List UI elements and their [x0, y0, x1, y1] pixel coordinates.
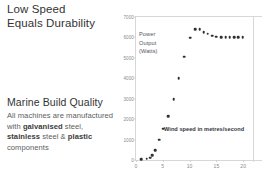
body-bold-plastic: plastic — [68, 132, 92, 141]
headline-line-2: Equals Durability — [7, 17, 115, 31]
x-axis-tick-label: 5 — [153, 163, 173, 169]
scatter-point — [224, 36, 227, 39]
scatter-point — [237, 36, 240, 39]
y-axis-tick-label: 4000 — [104, 76, 136, 81]
scatter-point — [202, 31, 205, 34]
power-curve-chart: 010002000300040005000600070000510152025 … — [118, 8, 262, 178]
scatter-point — [229, 36, 232, 39]
scatter-point — [178, 77, 181, 80]
scatter-point — [167, 115, 170, 118]
body-mid-1: steel, — [63, 122, 84, 131]
y-axis-tick-label: 7000 — [104, 15, 136, 20]
body-bold-stainless: stainless — [7, 132, 40, 141]
scatter-point — [241, 36, 244, 39]
scatter-point — [154, 149, 157, 152]
scatter-point — [189, 37, 192, 40]
x-axis-tick-mark — [216, 160, 217, 162]
body-mid-2: steel & — [40, 132, 68, 141]
y-axis-tick-label: 2000 — [104, 117, 136, 122]
x-axis-tick-mark — [163, 160, 164, 162]
x-axis-tick-mark — [243, 160, 244, 162]
y-axis-tick-label: 3000 — [104, 96, 136, 101]
y-axis-tick-mark — [134, 78, 136, 79]
x-axis-label: Wind speed in metres/second — [164, 126, 244, 133]
y-axis-tick-label: 1000 — [104, 137, 136, 142]
section-body: All machines are manufactured with galva… — [7, 111, 114, 153]
y-axis-tick-mark — [134, 17, 136, 18]
scatter-point — [151, 154, 154, 157]
series-annotation-line-1: Power — [139, 30, 158, 39]
x-axis-tick-label: 0 — [126, 163, 146, 169]
section-title: Marine Build Quality — [7, 96, 114, 109]
y-axis-tick-label: 0 — [104, 158, 136, 163]
x-axis-tick-label: 10 — [180, 163, 200, 169]
y-axis-tick-label: 6000 — [104, 35, 136, 40]
x-axis-tick-label: 15 — [206, 163, 226, 169]
scatter-point — [172, 98, 175, 101]
y-axis-tick-mark — [134, 119, 136, 120]
y-axis-tick-label: 5000 — [104, 55, 136, 60]
marine-build-quality-block: Marine Build Quality All machines are ma… — [7, 96, 114, 153]
scatter-point — [207, 32, 210, 35]
scatter-point — [233, 36, 236, 39]
scatter-point — [149, 156, 152, 159]
x-axis-tick-label: 20 — [233, 163, 253, 169]
chart-plot-right-border — [253, 16, 254, 162]
x-axis-tick-label: 25 — [260, 163, 262, 169]
scatter-point — [140, 158, 143, 161]
scatter-point — [211, 34, 214, 37]
scatter-point — [220, 36, 223, 39]
scatter-point — [198, 28, 201, 31]
x-axis-tick-mark — [190, 160, 191, 162]
scatter-point — [145, 157, 148, 160]
left-text-column: Low Speed Equals Durability Marine Build… — [0, 0, 118, 186]
scatter-point — [194, 28, 197, 31]
scatter-point — [158, 138, 161, 141]
body-bold-galvanised: galvanised — [23, 122, 63, 131]
y-axis-tick-mark — [134, 57, 136, 58]
scatter-point — [183, 56, 186, 59]
series-annotation: Power Output (Watts) — [139, 30, 158, 56]
y-axis-tick-mark — [134, 98, 136, 99]
headline-line-1: Low Speed — [7, 3, 115, 17]
y-axis-tick-mark — [134, 37, 136, 38]
scatter-point — [215, 36, 218, 39]
y-axis-tick-mark — [134, 139, 136, 140]
headline: Low Speed Equals Durability — [7, 3, 115, 30]
body-suffix: components — [7, 143, 49, 152]
series-annotation-line-3: (Watts) — [139, 47, 158, 56]
x-axis-tick-mark — [136, 160, 137, 162]
series-annotation-line-2: Output — [139, 39, 158, 48]
